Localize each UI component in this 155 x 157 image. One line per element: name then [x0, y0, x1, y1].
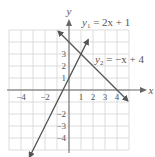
y-tick-label: 3: [62, 49, 67, 59]
y-tick-label: −4: [56, 133, 66, 143]
x-tick-label: −2: [40, 92, 50, 102]
x-tick-label: 4: [115, 92, 120, 102]
y-axis-label: y: [66, 5, 72, 17]
coordinate-plane: xy −4−21234321−2−3−4 y1 = 2x + 1 y2 = −x…: [0, 0, 155, 157]
series-2-label: y2 = −x + 4: [94, 53, 145, 67]
y-tick-label: −3: [56, 121, 66, 131]
y-tick-label: 1: [62, 73, 67, 83]
y-tick-label: −2: [56, 109, 66, 119]
x-axis-label: x: [148, 84, 154, 96]
x-tick-label: −4: [16, 92, 26, 102]
y-tick-label: 2: [62, 61, 67, 71]
x-tick-label: 3: [103, 92, 108, 102]
axes: xy: [7, 5, 154, 153]
series-1-label: y1 = 2x + 1: [81, 16, 130, 30]
line-labels: y1 = 2x + 1 y2 = −x + 4: [81, 16, 145, 67]
x-tick-label: 2: [91, 92, 96, 102]
x-tick-label: 1: [79, 92, 84, 102]
